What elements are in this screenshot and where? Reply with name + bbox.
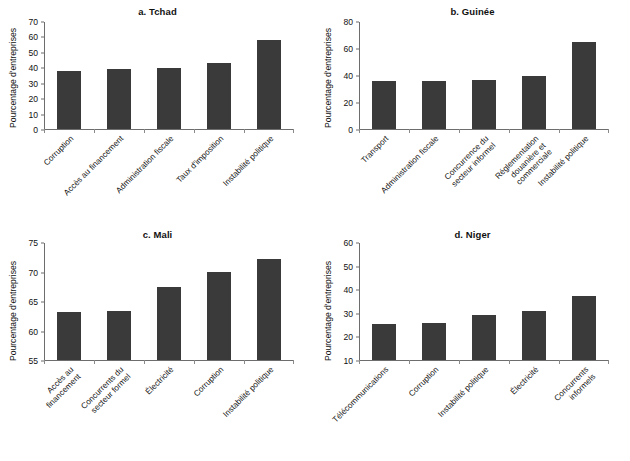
panel-title-b: b. Guinée — [315, 6, 630, 17]
y-axis-title-a: Pourcentage d'entreprises — [8, 22, 20, 134]
x-axis-line-b — [359, 129, 609, 130]
panel-title-d: d. Niger — [315, 229, 630, 240]
x-tick-mark — [559, 129, 560, 133]
x-tick-mark — [293, 360, 294, 364]
bar[interactable] — [422, 323, 446, 360]
chart-panel-b: b. Guinée Pourcentage d'entreprises 0204… — [315, 0, 630, 230]
bar-slot — [94, 22, 144, 129]
figure-sheet: a. Tchad Pourcentage d'entreprises 01020… — [0, 0, 630, 461]
plot-area-a: 010203040506070 CorruptionAccès au finan… — [44, 22, 294, 130]
bar-group-b — [359, 22, 609, 129]
x-tick-mark — [459, 129, 460, 133]
bar[interactable] — [257, 40, 281, 129]
bar[interactable] — [422, 81, 446, 129]
bar[interactable] — [57, 71, 81, 129]
bar-slot — [559, 22, 609, 129]
bar[interactable] — [157, 287, 181, 360]
bar[interactable] — [522, 311, 546, 360]
bar[interactable] — [372, 81, 396, 129]
bar-slot — [144, 243, 194, 360]
bar-slot — [409, 243, 459, 360]
x-tick-mark — [94, 129, 95, 133]
bar[interactable] — [57, 312, 81, 360]
x-tick-mark — [509, 360, 510, 364]
plot-area-d: 102030405060 TélécommunicationsCorruptio… — [359, 243, 609, 361]
bar[interactable] — [207, 272, 231, 360]
bar[interactable] — [157, 68, 181, 129]
bar-slot — [194, 22, 244, 129]
x-tick-mark — [244, 360, 245, 364]
x-tick-mark — [194, 129, 195, 133]
x-tick-mark — [44, 360, 45, 364]
x-tick-mark — [244, 129, 245, 133]
panel-title-c: c. Mali — [0, 229, 315, 240]
bar[interactable] — [472, 315, 496, 360]
x-tick-mark — [359, 129, 360, 133]
x-tick-mark — [608, 360, 609, 364]
bar[interactable] — [107, 311, 131, 360]
x-tick-mark — [409, 360, 410, 364]
bar-slot — [244, 22, 294, 129]
chart-panel-a: a. Tchad Pourcentage d'entreprises 01020… — [0, 0, 315, 230]
bar-slot — [94, 243, 144, 360]
x-axis-line-a — [44, 129, 294, 130]
x-tick-mark — [608, 129, 609, 133]
bar-slot — [459, 22, 509, 129]
bar-slot — [244, 243, 294, 360]
x-tick-mark — [94, 360, 95, 364]
plot-area-c: 5560657075 Accès au financementConcurren… — [44, 243, 294, 361]
x-axis-line-c — [44, 360, 294, 361]
bar-slot — [144, 22, 194, 129]
bar-slot — [409, 22, 459, 129]
bar[interactable] — [572, 296, 596, 360]
bar-slot — [509, 22, 559, 129]
bar[interactable] — [107, 69, 131, 129]
plot-area-b: 020406080 TransportAdministration fiscal… — [359, 22, 609, 130]
x-tick-mark — [194, 360, 195, 364]
bar-group-d — [359, 243, 609, 360]
x-tick-mark — [144, 129, 145, 133]
bar[interactable] — [522, 76, 546, 130]
bar-slot — [359, 243, 409, 360]
bar-group-c — [44, 243, 294, 360]
x-tick-mark — [559, 360, 560, 364]
y-axis-title-c: Pourcentage d'entreprises — [8, 255, 20, 367]
x-tick-mark — [293, 129, 294, 133]
bar[interactable] — [472, 80, 496, 129]
x-tick-mark — [44, 129, 45, 133]
x-tick-mark — [409, 129, 410, 133]
bar[interactable] — [207, 63, 231, 129]
bar-slot — [44, 243, 94, 360]
bar-slot — [459, 243, 509, 360]
y-axis-title-d: Pourcentage d'entreprises — [323, 255, 335, 367]
y-axis-title-b: Pourcentage d'entreprises — [323, 22, 335, 134]
bar[interactable] — [372, 324, 396, 360]
chart-panel-c: c. Mali Pourcentage d'entreprises 556065… — [0, 225, 315, 461]
bar[interactable] — [257, 259, 281, 360]
x-tick-mark — [509, 129, 510, 133]
bar-slot — [559, 243, 609, 360]
bar-slot — [509, 243, 559, 360]
bar-slot — [44, 22, 94, 129]
bar-slot — [359, 22, 409, 129]
panel-title-a: a. Tchad — [0, 6, 315, 17]
x-tick-mark — [459, 360, 460, 364]
chart-panel-d: d. Niger Pourcentage d'entreprises 10203… — [315, 225, 630, 461]
bar-slot — [194, 243, 244, 360]
x-tick-mark — [144, 360, 145, 364]
bar-group-a — [44, 22, 294, 129]
x-axis-line-d — [359, 360, 609, 361]
x-tick-mark — [359, 360, 360, 364]
bar[interactable] — [572, 42, 596, 129]
